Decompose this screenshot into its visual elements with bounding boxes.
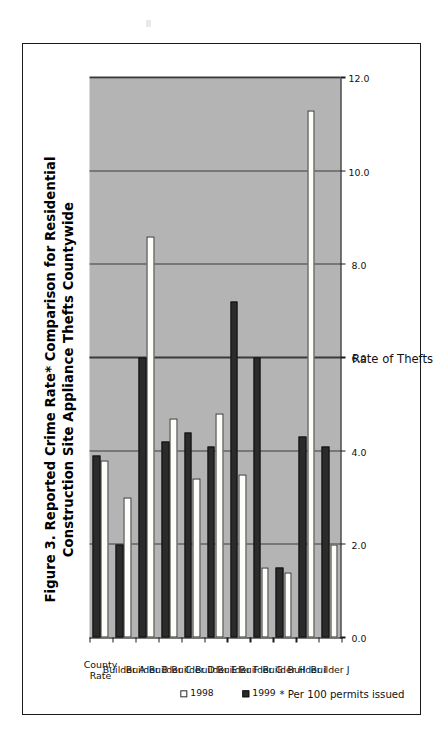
bar-1999-builder-g [253, 357, 261, 637]
rotated-figure-content: Figure 3. Reported Crime Rate* Compariso… [25, 46, 418, 712]
value-tick-label: 2.0 [353, 531, 364, 559]
bar-1999-builder-j [321, 446, 329, 637]
bar-1998-builder-a [123, 497, 131, 637]
figure-title-line-1: Figure 3. Reported Crime Rate* Compariso… [41, 46, 59, 712]
gridline [89, 263, 340, 264]
gridline [89, 170, 340, 171]
category-axis-tick [158, 637, 159, 642]
legend-label-1999: 1999 [252, 687, 275, 698]
value-tick-label-text: 2.0 [351, 539, 366, 550]
category-axis-tick [112, 637, 113, 642]
category-axis-tick [226, 637, 227, 642]
bar-1998-builder-b [146, 236, 154, 637]
figure-footnote: * Per 100 permits issued [329, 634, 353, 754]
bar-1999-builder-i [298, 436, 306, 637]
scan-artifact [146, 20, 151, 27]
category-axis-tick [204, 637, 205, 642]
value-axis-tick [340, 170, 345, 171]
category-axis-tick [295, 637, 296, 642]
bar-1998-builder-h [284, 572, 292, 637]
bar-1999-builder-h [275, 567, 283, 637]
bar-1999-builder-b [138, 357, 146, 637]
bar-1999-builder-e [207, 446, 215, 637]
gridline [89, 356, 340, 357]
bar-1998-builder-d [192, 478, 200, 637]
value-axis-tick [340, 356, 345, 357]
figure-page: Figure 3. Reported Crime Rate* Compariso… [0, 0, 444, 755]
legend-entry-1999: 1999 [252, 668, 266, 716]
bar-1998-builder-i [307, 110, 315, 637]
figure-title: Figure 3. Reported Crime Rate* Compariso… [41, 46, 76, 712]
value-tick-label: 10.0 [353, 157, 364, 185]
legend-swatch-1999 [242, 690, 249, 697]
category-axis-tick [318, 637, 319, 642]
value-axis-tick [340, 76, 345, 77]
bar-1998-builder-j [330, 544, 338, 637]
value-tick-label: 0.0 [353, 624, 364, 652]
category-axis-tick [89, 637, 90, 642]
category-axis-tick [135, 637, 136, 642]
plot-area-wrapper [89, 78, 341, 638]
value-tick-label-text: 8.0 [351, 259, 366, 270]
legend-label-1998: 1998 [190, 687, 213, 698]
value-tick-label-text: 10.0 [348, 166, 369, 177]
category-axis-tick [181, 637, 182, 642]
legend-entry-1998: 1998 [190, 668, 204, 716]
legend-swatch-1998 [180, 690, 187, 697]
category-axis-tick [272, 637, 273, 642]
category-axis-tick [249, 637, 250, 642]
value-tick-label-text: 4.0 [351, 446, 366, 457]
bar-1999-builder-f [230, 301, 238, 637]
value-axis-tick [340, 450, 345, 451]
value-tick-label: 12.0 [353, 64, 364, 92]
bar-1999-builder-d [184, 432, 192, 637]
bar-1999-builder-a [115, 544, 123, 637]
plot-area [89, 78, 341, 638]
bar-1998-county-rate [100, 460, 108, 637]
value-tick-label: 4.0 [353, 437, 364, 465]
bar-1998-builder-e [215, 413, 223, 637]
footnote-text: * Per 100 permits issued [278, 688, 403, 699]
value-tick-label: 8.0 [353, 251, 364, 279]
value-tick-label-text: 12.0 [348, 73, 369, 84]
value-axis-title-text: Rate of Thefts [351, 351, 432, 365]
figure-title-line-2: Construction Site Appliance Thefts Count… [59, 46, 77, 712]
bar-1999-county-rate [92, 455, 100, 637]
bar-1998-builder-f [238, 474, 246, 637]
value-axis-title: Rate of Thefts [385, 78, 399, 638]
bar-1998-builder-g [261, 567, 269, 637]
value-axis-tick [340, 543, 345, 544]
value-axis-tick [340, 263, 345, 264]
bar-1998-builder-c [169, 418, 177, 637]
bar-1999-builder-c [161, 441, 169, 637]
gridline [89, 76, 340, 77]
figure-frame: Figure 3. Reported Crime Rate* Compariso… [22, 43, 421, 715]
